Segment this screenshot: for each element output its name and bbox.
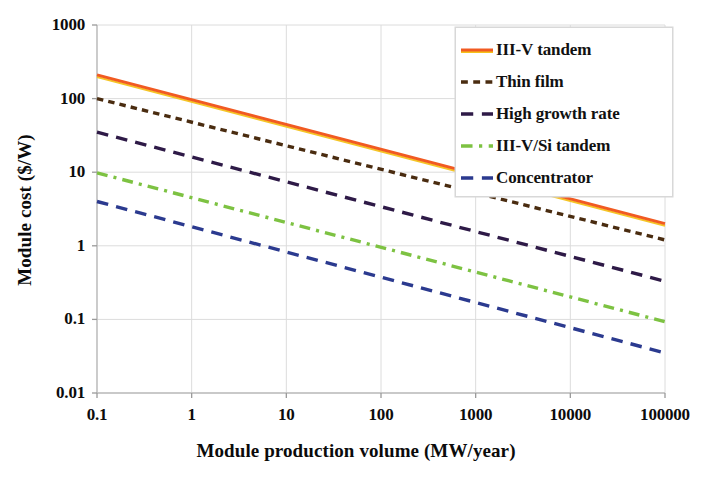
legend-item-label: III-V/Si tandem xyxy=(496,136,610,156)
y-tick-label: 1 xyxy=(0,236,85,256)
y-tick-label: 0.01 xyxy=(0,383,85,403)
legend-item[interactable]: III-V/Si tandem xyxy=(460,130,668,162)
legend-item[interactable]: Thin film xyxy=(460,66,668,98)
x-tick-label: 10 xyxy=(278,405,295,425)
y-tick-label: 100 xyxy=(0,89,85,109)
legend-swatch-dotted-icon xyxy=(460,76,494,88)
x-axis-title: Module production volume (MW/year) xyxy=(196,440,515,462)
x-tick-label: 100000 xyxy=(640,405,690,425)
legend-item-label: Thin film xyxy=(496,72,564,92)
legend-swatch-dash-dot-icon xyxy=(460,140,494,152)
legend-item-label: High growth rate xyxy=(496,104,620,124)
legend-item[interactable]: III-V tandem xyxy=(460,34,668,66)
chart-figure: 10001001010.10.01 0.11101001000100001000… xyxy=(0,0,713,481)
y-tick-label: 10 xyxy=(0,162,85,182)
y-tick-label: 0.1 xyxy=(0,309,85,329)
x-tick-label: 1 xyxy=(188,405,196,425)
legend-item-label: Concentrator xyxy=(496,168,593,188)
legend-item[interactable]: Concentrator xyxy=(460,162,668,194)
legend-swatch-dashed-icon xyxy=(460,108,494,120)
legend-item-label: III-V tandem xyxy=(496,40,591,60)
x-tick-label: 100 xyxy=(369,405,394,425)
x-tick-label: 10000 xyxy=(550,405,592,425)
legend-item[interactable]: High growth rate xyxy=(460,98,668,130)
x-tick-label: 0.1 xyxy=(87,405,108,425)
legend-swatch-dashed-icon xyxy=(460,172,494,184)
x-tick-label: 1000 xyxy=(459,405,492,425)
y-tick-label: 1000 xyxy=(0,15,85,35)
y-axis-title: Module cost ($/W) xyxy=(14,134,36,286)
chart-legend: III-V tandemThin filmHigh growth rateIII… xyxy=(455,27,673,197)
legend-swatch-solid-icon xyxy=(460,44,494,56)
